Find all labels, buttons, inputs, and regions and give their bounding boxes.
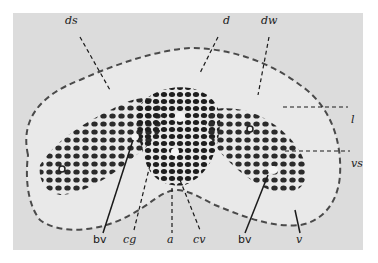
label-l: l — [351, 114, 355, 125]
label-v: v — [296, 234, 302, 245]
label-vs: vs — [351, 158, 363, 169]
label-a: a — [167, 234, 174, 245]
label-d: d — [223, 15, 230, 26]
tissue-section-drawing — [13, 13, 363, 250]
label-cg: cg — [123, 234, 136, 245]
label-bv-left: bv — [93, 234, 107, 245]
label-ds: ds — [65, 15, 78, 26]
label-cv: cv — [193, 234, 205, 245]
label-dw: dw — [261, 15, 277, 26]
label-bv-right: bv — [238, 234, 252, 245]
micrograph-panel: ds d dw l vs bv cg a cv bv v — [13, 13, 363, 250]
